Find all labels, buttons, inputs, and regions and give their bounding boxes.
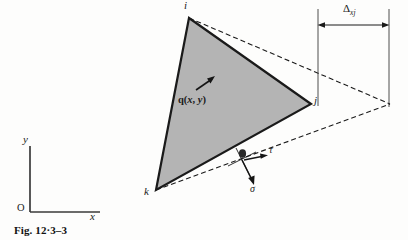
- shear-stress-label: τ: [269, 145, 273, 155]
- normal-arrow-shaft: [242, 160, 252, 180]
- node-label-i: i: [184, 0, 187, 11]
- node-label-j: j: [314, 95, 317, 106]
- figure-container: i j k q(x, y) τ σ Δxj y x O Fig. 12·3–3: [0, 0, 408, 240]
- coordinate-axes: [30, 146, 100, 212]
- dimension-label-subscript: xj: [350, 8, 355, 17]
- stress-element: [228, 148, 268, 185]
- stress-point-marker: [239, 149, 246, 158]
- dimension-arrow-left: [318, 22, 326, 28]
- dimension-label: Δxj: [343, 3, 356, 14]
- normal-stress-label: σ: [250, 184, 255, 194]
- origin-label: O: [17, 203, 25, 214]
- figure-caption: Fig. 12·3–3: [14, 224, 67, 236]
- node-label-k: k: [144, 186, 149, 197]
- y-axis-label: y: [23, 134, 28, 145]
- dimension-arrow-right: [382, 22, 390, 28]
- load-label: q(x, y): [178, 95, 206, 106]
- dimension-line: [318, 22, 390, 28]
- shear-arrow-head: [260, 153, 268, 158]
- figure-graphics: [0, 0, 408, 240]
- x-axis-label: x: [90, 211, 95, 222]
- dimension-extension-lines: [318, 9, 389, 107]
